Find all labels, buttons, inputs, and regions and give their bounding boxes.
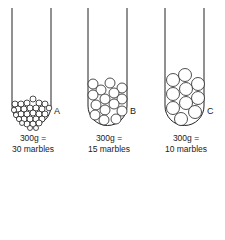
caption-a-mass: 300g = bbox=[3, 133, 63, 144]
caption-b: 300g = 15 marbles bbox=[79, 133, 139, 155]
caption-b-count: 15 marbles bbox=[79, 144, 139, 155]
caption-a-count: 30 marbles bbox=[3, 144, 63, 155]
caption-c: 300g = 10 marbles bbox=[156, 133, 216, 155]
caption-c-mass: 300g = bbox=[156, 133, 216, 144]
caption-c-count: 10 marbles bbox=[156, 144, 216, 155]
tube-label-b: B bbox=[130, 106, 136, 116]
caption-a: 300g = 30 marbles bbox=[3, 133, 63, 155]
marbles-b bbox=[88, 78, 127, 125]
tube-label-a: A bbox=[54, 106, 60, 116]
tube-label-c: C bbox=[207, 106, 214, 116]
marbles-a bbox=[11, 96, 51, 131]
marbles-c bbox=[167, 69, 205, 126]
caption-b-mass: 300g = bbox=[79, 133, 139, 144]
